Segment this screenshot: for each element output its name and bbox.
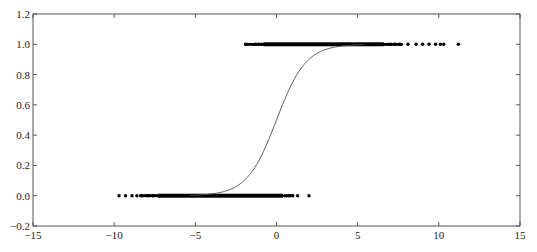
data-point [307, 194, 310, 197]
x-tick-label: 0 [274, 229, 280, 241]
data-point [135, 194, 138, 197]
y-tick-label: 0.2 [16, 159, 30, 171]
dense-point-band [264, 42, 384, 46]
data-point [130, 194, 133, 197]
data-point [434, 43, 437, 46]
data-point [398, 43, 401, 46]
sigmoid-scatter-figure: −15−10−5051015 −0.20.00.20.40.60.81.01.2 [0, 0, 537, 252]
data-point [288, 194, 291, 197]
data-point [406, 43, 409, 46]
y-tick-label: 0.4 [16, 129, 30, 141]
data-point [147, 194, 150, 197]
chart-canvas: −15−10−5051015 −0.20.00.20.40.60.81.01.2 [0, 0, 537, 252]
data-point [414, 43, 417, 46]
y-tick-label: 1.0 [16, 38, 30, 50]
y-tick-label: −0.2 [10, 220, 30, 232]
dense-point-band [158, 194, 283, 198]
y-tick-label: 0.8 [16, 69, 30, 81]
x-tick-label: −10 [106, 229, 124, 241]
data-point [439, 43, 442, 46]
data-point [427, 43, 430, 46]
data-point [285, 194, 288, 197]
data-point [421, 43, 424, 46]
data-point [156, 194, 159, 197]
data-point [140, 194, 143, 197]
data-point [151, 194, 154, 197]
y-tick-label: 1.2 [16, 8, 30, 20]
x-tick-label: 15 [515, 229, 527, 241]
data-point [244, 43, 247, 46]
data-point [388, 43, 391, 46]
x-tick-label: −5 [189, 229, 201, 241]
data-point [291, 194, 294, 197]
x-tick-label: 5 [355, 229, 361, 241]
data-point [254, 43, 257, 46]
data-point [296, 194, 299, 197]
data-point [393, 43, 396, 46]
data-point [442, 43, 445, 46]
data-point [117, 194, 120, 197]
y-tick-label: 0.6 [16, 99, 30, 111]
class-0-points [117, 194, 310, 198]
data-point [260, 43, 263, 46]
data-point [257, 43, 260, 46]
y-tick-label: 0.0 [16, 190, 30, 202]
data-point [457, 43, 460, 46]
x-tick-label: 10 [433, 229, 445, 241]
data-point [124, 194, 127, 197]
